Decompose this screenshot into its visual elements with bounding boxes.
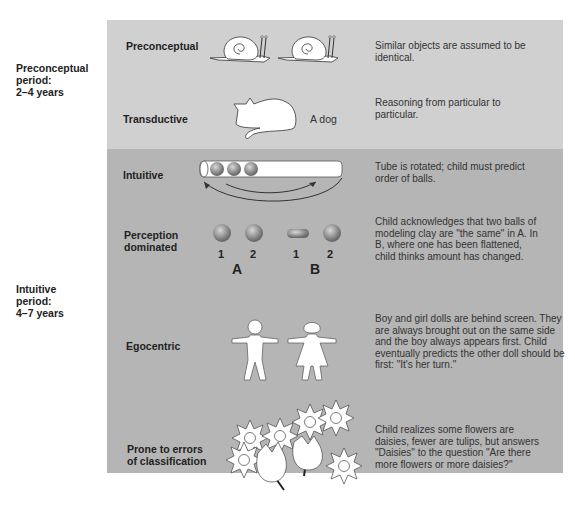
row-description-classification-errors: Child realizes some flowers are daisies,… — [375, 424, 545, 470]
row-label-preconceptual: Preconceptual — [126, 40, 198, 52]
snail-icon — [276, 34, 346, 66]
row-label-classification-errors: Prone to errors of classification — [127, 443, 206, 467]
row-description-preconceptual: Similar objects are assumed to be identi… — [375, 40, 535, 63]
period-name: Preconceptual — [16, 62, 88, 74]
row-label-egocentric: Egocentric — [126, 340, 180, 352]
clay-balls-icon — [210, 221, 345, 245]
ball-number: 1 — [293, 248, 299, 260]
period-name: Intuitive — [16, 283, 64, 295]
label-line: dominated — [124, 241, 178, 253]
tube-with-balls-icon — [196, 160, 346, 205]
row-description-transductive: Reasoning from particular to particular. — [375, 97, 535, 120]
row-description-perception-dominated: Child acknowledges that two balls of mod… — [375, 216, 540, 262]
label-line: Perception — [124, 229, 178, 241]
group-label-a: A — [232, 261, 242, 277]
row-description-intuitive: Tube is rotated; child must predict orde… — [375, 161, 535, 184]
group-label-b: B — [310, 261, 320, 277]
row-label-transductive: Transductive — [123, 113, 188, 125]
period-intuitive: Intuitive period: 4–7 years — [16, 283, 64, 319]
period-word: period: — [16, 295, 64, 307]
period-ages: 4–7 years — [16, 307, 64, 319]
row-label-intuitive: Intuitive — [123, 169, 163, 181]
daisies-and-tulips-icon — [228, 398, 368, 498]
cat-caption: A dog — [310, 113, 337, 125]
period-preconceptual: Preconceptual period: 2–4 years — [16, 62, 88, 98]
cat-icon — [230, 94, 300, 140]
ball-number: 1 — [218, 248, 224, 260]
snail-icon — [208, 34, 278, 66]
row-description-egocentric: Boy and girl dolls are behind screen. Th… — [375, 313, 570, 371]
boy-doll-icon — [230, 318, 280, 383]
girl-doll-icon — [286, 318, 338, 383]
period-ages: 2–4 years — [16, 86, 88, 98]
row-label-perception-dominated: Perception dominated — [124, 229, 178, 253]
label-line: Prone to errors — [127, 443, 206, 455]
ball-number: 2 — [250, 248, 256, 260]
period-word: period: — [16, 74, 88, 86]
ball-number: 2 — [327, 248, 333, 260]
label-line: of classification — [127, 455, 206, 467]
